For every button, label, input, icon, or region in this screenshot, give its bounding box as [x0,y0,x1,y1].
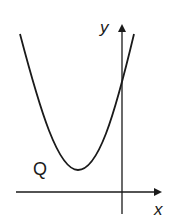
x-axis-label: x [153,200,163,219]
parabola-diagram: y x Q [0,0,173,221]
y-axis-label: y [99,18,110,37]
curve-label-q: Q [33,159,47,179]
parabola-curve-q [20,34,134,170]
